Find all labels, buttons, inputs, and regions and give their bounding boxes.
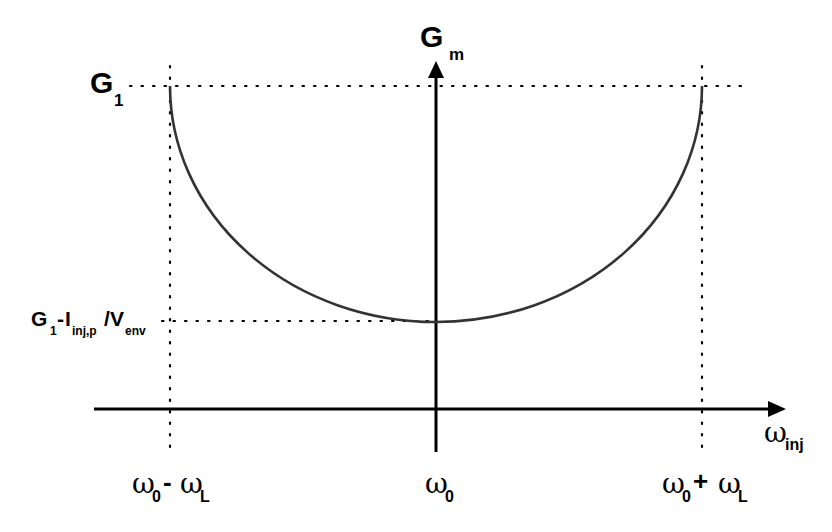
x-axis-label: ω inj bbox=[764, 416, 804, 453]
axes bbox=[94, 61, 786, 452]
svg-text:0: 0 bbox=[152, 488, 161, 505]
y-axis-arrowhead-icon bbox=[428, 61, 444, 78]
svg-text:env: env bbox=[125, 324, 146, 338]
svg-text:G: G bbox=[420, 20, 443, 53]
svg-text:ω: ω bbox=[764, 416, 787, 449]
svg-text:L: L bbox=[200, 488, 210, 505]
svg-text:1: 1 bbox=[50, 324, 57, 338]
x-label-center: ω 0 bbox=[425, 467, 454, 505]
svg-text:inj: inj bbox=[785, 436, 804, 453]
x-label-right: ω 0 + ω L bbox=[662, 466, 748, 505]
x-axis-arrowhead-icon bbox=[768, 401, 786, 417]
svg-text:0: 0 bbox=[445, 488, 454, 505]
svg-text:G: G bbox=[31, 307, 47, 330]
svg-text:I: I bbox=[65, 307, 71, 330]
svg-text:0: 0 bbox=[682, 488, 691, 505]
svg-text:+: + bbox=[693, 466, 708, 496]
svg-text:-: - bbox=[163, 467, 172, 497]
svg-text:L: L bbox=[738, 488, 748, 505]
svg-text:-: - bbox=[57, 307, 64, 330]
gmin-label: G 1 - I inj,p / V env bbox=[31, 307, 146, 338]
y-axis-label: G m bbox=[420, 20, 464, 64]
g1-label: G 1 bbox=[90, 66, 123, 110]
x-label-left: ω 0 - ω L bbox=[132, 467, 210, 505]
gm-vs-frequency-diagram: G m G 1 G 1 - I inj,p / V env ω inj ω 0 … bbox=[0, 0, 832, 532]
svg-text:V: V bbox=[110, 307, 124, 330]
svg-text:m: m bbox=[449, 45, 464, 64]
svg-text:1: 1 bbox=[114, 91, 123, 110]
svg-text:G: G bbox=[90, 66, 113, 99]
svg-text:inj,p: inj,p bbox=[72, 324, 97, 338]
